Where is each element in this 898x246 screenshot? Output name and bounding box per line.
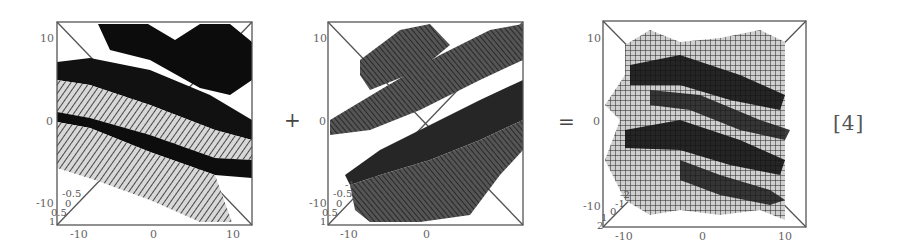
y-tick-label: -10 [583,201,601,212]
y-tick-label: 10 [313,33,327,44]
x-tick-label: 0 [423,229,430,240]
y-tick-label: 0 [46,116,53,127]
y-tick-label: 10 [40,33,54,44]
y-tick-label: 10 [587,33,601,44]
x-tick-label: -10 [615,231,633,242]
panel-middle-wave [328,22,523,225]
y-tick-label: 0 [319,116,326,127]
panel-sum-wave [603,21,806,227]
figure-canvas [0,0,898,246]
x-tick-label: 0 [699,231,706,242]
plus-operator: + [284,110,301,130]
z-tick-label: 1 [320,217,326,227]
z-tick-label: 2 [597,221,603,231]
z-tick-label: 0 [610,207,616,217]
x-tick-label: 10 [778,231,792,242]
z-tick-label: -1 [615,199,625,209]
x-tick-label: 0 [150,229,157,240]
panel-left-wave [57,22,252,225]
z-tick-label: 1 [49,217,55,227]
y-tick-label: 0 [593,116,600,127]
x-tick-label: -10 [70,229,88,240]
x-tick-label: -10 [340,229,358,240]
reference-label: [4] [833,113,864,133]
x-tick-label: 10 [226,229,240,240]
equals-operator: = [558,112,575,132]
